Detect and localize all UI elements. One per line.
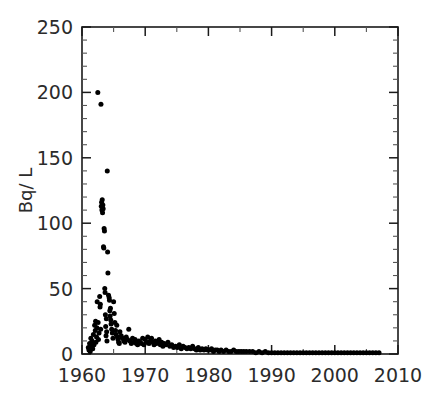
data-point — [96, 337, 101, 342]
data-point — [100, 197, 105, 202]
data-point — [101, 206, 106, 211]
x-tick-label: 2000 — [311, 364, 359, 386]
data-point — [96, 320, 101, 325]
x-tick-label: 1970 — [121, 364, 169, 386]
data-point — [95, 90, 100, 95]
data-points-group — [86, 90, 382, 355]
y-tick-label: 250 — [37, 16, 73, 38]
y-axis-title: Bq/ L — [15, 168, 36, 214]
data-point — [111, 299, 116, 304]
x-tick-label: 1960 — [58, 364, 106, 386]
plot-frame — [82, 27, 398, 354]
y-tick-label: 150 — [37, 147, 73, 169]
data-point — [97, 294, 102, 299]
data-point — [98, 327, 103, 332]
y-tick-label: 50 — [49, 278, 73, 300]
chart-figure: 050100150200250196019701980199020002010B… — [0, 0, 434, 403]
data-point — [102, 229, 107, 234]
data-point — [108, 306, 113, 311]
data-point — [104, 329, 109, 334]
x-tick-label: 1990 — [247, 364, 295, 386]
data-point — [103, 324, 108, 329]
data-point — [104, 338, 109, 343]
data-point — [105, 270, 110, 275]
data-point — [112, 311, 117, 316]
data-point — [117, 341, 122, 346]
data-point — [126, 327, 131, 332]
x-tick-label: 2010 — [374, 364, 422, 386]
data-point — [105, 249, 110, 254]
data-point — [110, 336, 115, 341]
data-point — [114, 323, 119, 328]
y-tick-label: 200 — [37, 81, 73, 103]
data-point — [98, 302, 103, 307]
scatter-plot: 050100150200250196019701980199020002010B… — [0, 0, 434, 403]
data-point — [377, 350, 382, 355]
data-point — [98, 102, 103, 107]
x-tick-label: 1980 — [184, 364, 232, 386]
data-point — [105, 168, 110, 173]
data-point — [101, 246, 106, 251]
y-tick-label: 0 — [61, 343, 73, 365]
y-tick-label: 100 — [37, 212, 73, 234]
